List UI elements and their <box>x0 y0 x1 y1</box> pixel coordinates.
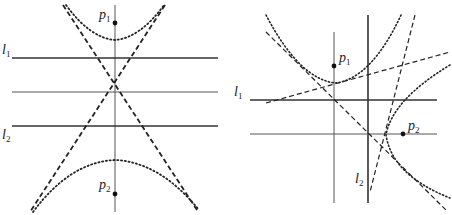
point-p2 <box>113 192 118 197</box>
point-p1 <box>113 21 118 26</box>
dashed-line-shallow <box>266 52 450 103</box>
left-panel: p1 p2 l1 l2 <box>2 5 218 212</box>
label-l2: l2 <box>2 127 10 144</box>
label-p1: p1 <box>98 7 111 24</box>
label-p1: p1 <box>338 50 351 67</box>
label-l1: l1 <box>234 84 242 101</box>
hyperbola-diagram: p1 p2 l1 l2 p1 p2 l1 l2 <box>0 0 452 215</box>
dashed-line-l2 <box>370 15 415 192</box>
label-l1: l1 <box>2 42 10 59</box>
point-p1 <box>332 64 337 69</box>
point-p2 <box>401 132 406 137</box>
label-p2: p2 <box>407 118 420 135</box>
right-panel: p1 p2 l1 l2 <box>234 13 450 210</box>
label-p2: p2 <box>98 177 111 194</box>
asymptote-2 <box>30 5 165 212</box>
label-l2: l2 <box>355 171 363 188</box>
